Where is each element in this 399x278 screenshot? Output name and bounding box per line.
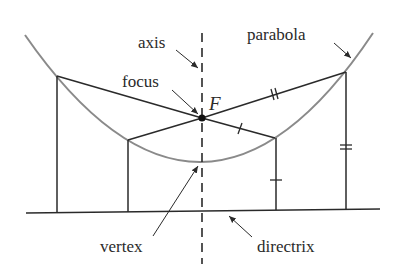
axis-label: axis xyxy=(138,33,165,52)
axis-arrow xyxy=(176,50,198,68)
directrix-label: directrix xyxy=(257,237,315,256)
vertex-label: vertex xyxy=(100,237,143,256)
focus-symbol-label: F xyxy=(208,93,221,114)
vertex-arrow xyxy=(153,166,198,236)
focus-point xyxy=(198,114,205,121)
parabola-label: parabola xyxy=(247,25,306,44)
directrix-arrow xyxy=(229,216,252,237)
focus-label: focus xyxy=(122,72,159,91)
parabola-diagram: axis focus F parabola vertex directrix xyxy=(0,0,399,278)
label-arrows xyxy=(153,43,351,237)
parabola-curve xyxy=(25,33,373,162)
directrix-line xyxy=(26,209,380,213)
parabola-arrow xyxy=(334,43,351,58)
